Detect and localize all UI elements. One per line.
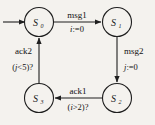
state-machine-diagram: S 0 S 1 S 2 S 3 msg1 i:=0 msg2 j:=0 <box>0 0 155 125</box>
state-circle-s3[interactable] <box>25 84 54 113</box>
state-node-s3[interactable]: S 3 <box>25 84 54 113</box>
state-circle-s0[interactable] <box>25 8 54 37</box>
state-circle-s1[interactable] <box>103 8 132 37</box>
transition-event-label-s3-s0: ack2 <box>15 46 32 56</box>
transition-action-label-s3-s0: (j<5)? <box>12 62 33 72</box>
state-node-s0[interactable]: S 0 <box>25 8 54 37</box>
diagram-canvas: S 0 S 1 S 2 S 3 msg1 i:=0 msg2 j:=0 <box>0 0 155 125</box>
state-label-s1: S <box>111 17 116 28</box>
transition-action-label-s1-s2: j:=0 <box>123 62 138 72</box>
transition-action-rest-s2-s3: >2)? <box>73 102 89 112</box>
state-label-s2: S <box>111 93 116 104</box>
transition-event-label-s0-s1: msg1 <box>67 10 87 20</box>
state-circle-s2[interactable] <box>103 84 132 113</box>
state-subscript-s2: 2 <box>119 99 122 105</box>
state-subscript-s1: 1 <box>119 23 122 29</box>
state-label-s0: S <box>33 17 38 28</box>
transition-action-rest-s0-s1: :=0 <box>72 24 83 34</box>
transition-action-label-s0-s1: i:=0 <box>70 24 84 34</box>
transition-action-rest-s3-s0: <5)? <box>17 62 33 72</box>
state-node-s2[interactable]: S 2 <box>103 84 132 113</box>
state-subscript-s3: 3 <box>40 99 44 105</box>
state-label-s3: S <box>33 93 38 104</box>
transition-event-label-s2-s3: ack1 <box>70 86 87 96</box>
transition-event-label-s1-s2: msg2 <box>124 46 144 56</box>
state-node-s1[interactable]: S 1 <box>103 8 132 37</box>
transition-action-rest-s1-s2: :=0 <box>126 62 137 72</box>
transition-action-label-s2-s3: (i>2)? <box>68 102 89 112</box>
state-subscript-s0: 0 <box>41 23 44 29</box>
